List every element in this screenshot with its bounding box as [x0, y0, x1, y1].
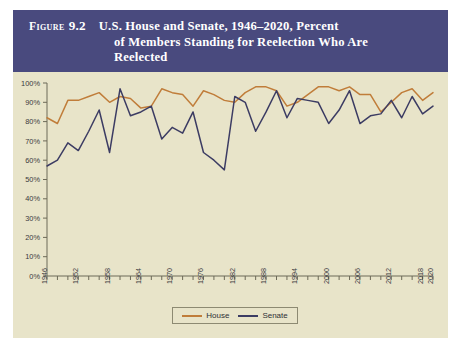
y-tick-label: 70%: [25, 137, 40, 146]
y-tick-label: 40%: [25, 194, 40, 203]
line-chart-svg: 0%10%20%30%40%50%60%70%80%90%100% 194619…: [13, 72, 448, 338]
x-tick-label: 1964: [134, 268, 143, 284]
legend-item-house[interactable]: House: [182, 311, 229, 320]
series-line-house: [47, 87, 433, 124]
y-tick-label: 0%: [29, 272, 40, 281]
y-tick-label: 30%: [25, 214, 40, 223]
x-tick-label: 2012: [384, 268, 393, 284]
x-tick-label: 1982: [228, 268, 237, 284]
y-tick-label: 20%: [25, 233, 40, 242]
x-axis: 1946195219581964197019761982198819942000…: [40, 268, 435, 284]
y-tick-label: 60%: [25, 156, 40, 165]
x-tick-label: 1958: [103, 268, 112, 284]
y-tick-label: 90%: [25, 98, 40, 107]
y-tick-label: 100%: [21, 79, 40, 88]
figure-header: Figure9.2U.S. House and Senate, 1946–202…: [13, 10, 448, 72]
x-tick-label: 1994: [290, 268, 299, 284]
figure-number: 9.2: [69, 18, 86, 34]
chart-legend: House Senate: [172, 307, 298, 324]
x-tick-label: 1952: [71, 268, 80, 284]
legend-swatch-senate-icon: [238, 315, 258, 317]
legend-label-house: House: [206, 311, 229, 320]
y-tick-label: 50%: [25, 175, 40, 184]
x-tick-label: 2020: [426, 268, 435, 284]
figure-title-line-1: Figure9.2U.S. House and Senate, 1946–202…: [29, 18, 434, 35]
figure-title-line-2: of Members Standing for Reelection Who A…: [29, 35, 434, 51]
legend-swatch-house-icon: [182, 315, 202, 317]
x-tick-label: 1970: [165, 268, 174, 284]
x-tick-label: 1946: [40, 268, 49, 284]
legend-item-senate[interactable]: Senate: [238, 311, 287, 320]
figure-container: Figure9.2U.S. House and Senate, 1946–202…: [0, 0, 461, 348]
chart-plot: 0%10%20%30%40%50%60%70%80%90%100% 194619…: [13, 72, 448, 338]
x-tick-label: 1976: [196, 268, 205, 284]
y-axis-ticks: 0%10%20%30%40%50%60%70%80%90%100%: [21, 79, 47, 281]
x-tick-label: 2000: [322, 268, 331, 284]
x-tick-label: 2006: [353, 268, 362, 284]
x-tick-label: 1988: [259, 268, 268, 284]
x-tick-label: 2018: [416, 268, 425, 284]
data-series-group: [47, 87, 433, 170]
figure-label: Figure: [29, 19, 65, 35]
figure-title-text-1: U.S. House and Senate, 1946–2020, Percen…: [99, 19, 339, 33]
y-tick-label: 10%: [25, 252, 40, 261]
y-tick-label: 80%: [25, 117, 40, 126]
figure-title-line-3: Reelected: [29, 50, 434, 66]
legend-label-senate: Senate: [262, 311, 287, 320]
y-axis: 0%10%20%30%40%50%60%70%80%90%100%: [21, 79, 47, 281]
